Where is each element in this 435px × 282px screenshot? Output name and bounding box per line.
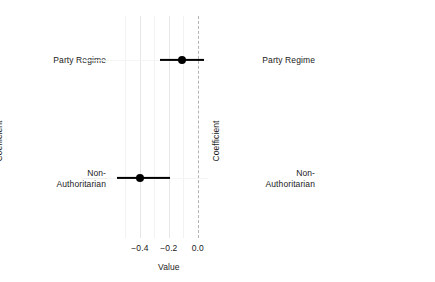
plot-area-left	[108, 16, 208, 238]
estimate-point	[136, 174, 144, 182]
y-axis-title: Coefficient	[211, 120, 221, 161]
gridline-minor	[183, 16, 184, 238]
y-axis-tick-label: Party Regime	[225, 55, 315, 66]
y-axis-title: Coefficient	[0, 120, 4, 161]
coefficient-plot-panel-left: Coefficient Value Party RegimeNon- Autho…	[0, 0, 218, 282]
zero-reference-line	[198, 16, 199, 238]
y-axis-tick-mark	[82, 60, 108, 61]
x-axis-title: Value	[129, 262, 209, 272]
gridline-minor	[125, 16, 126, 238]
coefficient-plot-figure: Coefficient Value Party RegimeNon- Autho…	[0, 0, 435, 282]
gridline-major	[169, 16, 170, 238]
x-axis-tick-label: 0.0	[178, 243, 218, 253]
y-axis-tick-mark	[82, 178, 108, 179]
estimate-point	[178, 56, 186, 64]
gridline-minor	[154, 16, 155, 238]
y-axis-tick-label: Non- Authoritarian	[225, 168, 315, 189]
coefficient-plot-panel-right: Coefficient Value Party RegimeNon- Autho…	[217, 0, 435, 282]
gridline-major	[140, 16, 141, 238]
